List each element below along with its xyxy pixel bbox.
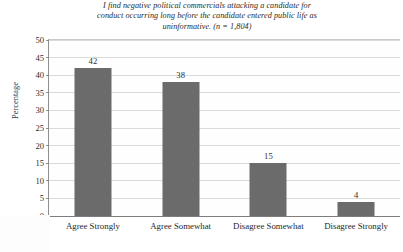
bar-value-label: 4: [354, 190, 358, 200]
y-axis-tick-label: 5: [40, 193, 44, 203]
bar-value-label: 38: [176, 70, 185, 80]
bar-group: 15Disagree Somewhat: [225, 40, 313, 216]
y-axis-title: Percentage: [11, 61, 20, 141]
bar[interactable]: [338, 202, 375, 216]
y-axis-tick-label: 45: [35, 53, 44, 63]
bar-value-label: 15: [264, 151, 273, 161]
bar-group: 42Agree Strongly: [49, 40, 137, 216]
chart-title-line-2: conduct occurring long before the candid…: [62, 11, 352, 21]
plot-area: 05101520253035404550 42Agree Strongly38A…: [48, 39, 400, 217]
y-axis-tick-label: 10: [35, 176, 44, 186]
y-axis-tick-label: 40: [35, 70, 44, 80]
y-axis-tick-label: 20: [35, 141, 44, 151]
x-axis-category-label: Disagree Somewhat: [233, 221, 304, 231]
y-axis-tick-label: 30: [35, 105, 44, 115]
chart-title-line-3: uninformative. (n = 1,804): [62, 22, 352, 32]
y-axis-tick-label: 15: [35, 158, 44, 168]
x-axis-category-label: Agree Strongly: [66, 221, 120, 231]
bar-value-label: 42: [89, 56, 98, 66]
bar[interactable]: [74, 68, 111, 216]
chart-title: I find negative political commercials at…: [62, 1, 352, 32]
bar-chart-figure: I find negative political commercials at…: [0, 0, 403, 252]
chart-title-line-1: I find negative political commercials at…: [62, 1, 352, 11]
bar-group: 38Agree Somewhat: [137, 40, 225, 216]
x-axis-category-label: Agree Somewhat: [150, 221, 211, 231]
bar[interactable]: [250, 163, 287, 216]
y-axis-tick-label: 25: [35, 123, 44, 133]
scan-artifact: [0, 215, 50, 252]
y-axis-tick-label: 50: [35, 35, 44, 45]
bar[interactable]: [162, 82, 199, 216]
y-axis-tick-label: 35: [35, 88, 44, 98]
bar-group: 4Disagree Strongly: [312, 40, 400, 216]
x-axis-category-label: Disagree Strongly: [324, 221, 388, 231]
